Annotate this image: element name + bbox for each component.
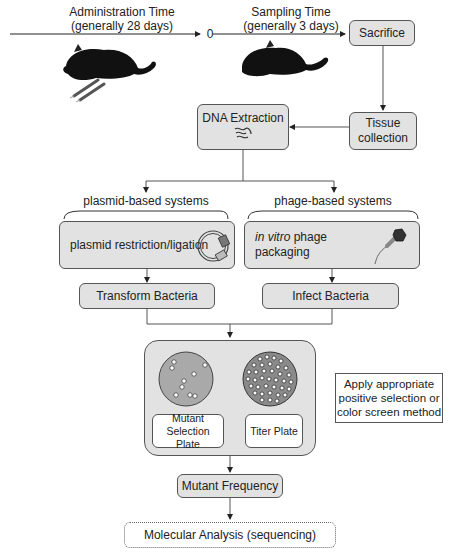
note-line-1: Apply appropriate [344,377,434,391]
phage-step-rest: phage [290,230,327,244]
mutant-plate-label-1: Mutant [172,412,204,425]
titer-plate-icon [243,352,297,406]
molecular-analysis-label: Molecular Analysis (sequencing) [144,528,316,543]
administration-detail: (generally 28 days) [52,19,192,33]
plasmid-step-label: plasmid restriction/ligation [70,238,208,253]
phage-icon [369,226,409,266]
selection-method-note: Apply appropriate positive selection or … [335,373,443,423]
plasmid-icon [194,226,232,266]
petri-dish-icon [159,352,213,406]
infect-bacteria-box: Infect Bacteria [262,283,399,309]
titer-plate-box: Titer Plate [245,414,303,448]
plasmid-branch-label: plasmid-based systems [64,194,228,208]
plasmid-restriction-ligation-box: plasmid restriction/ligation [59,221,235,269]
administration-title: Administration Time [52,5,192,19]
dna-icon [233,126,253,140]
note-line-2: positive selection or [339,391,440,405]
sampling-title: Sampling Time [236,5,346,19]
phage-step-label-2: packaging [255,245,310,260]
transform-bacteria-label: Transform Bacteria [96,289,198,304]
tissue-collection-label-1: Tissue [366,116,401,131]
sampling-time-label: Sampling Time (generally 3 days) [236,5,346,33]
infect-bacteria-label: Infect Bacteria [292,289,369,304]
dna-extraction-label: DNA Extraction [202,111,283,126]
molecular-analysis-box: Molecular Analysis (sequencing) [124,522,336,548]
sacrifice-box: Sacrifice [349,20,415,46]
phage-branch-label: phage-based systems [248,194,418,208]
tissue-collection-label-2: collection [358,131,408,146]
titer-plate-label: Titer Plate [250,425,297,438]
mouse-icon [238,38,330,80]
transform-bacteria-box: Transform Bacteria [79,283,215,309]
mutant-frequency-box: Mutant Frequency [177,474,283,498]
time-zero-marker: 0 [204,27,216,41]
mutant-selection-plate-box: Mutant Selection Plate [152,414,224,448]
mutant-plate-label-2: Selection Plate [153,425,223,451]
tissue-collection-box: Tissue collection [349,112,417,150]
sacrifice-label: Sacrifice [359,26,405,41]
mutant-frequency-label: Mutant Frequency [182,479,279,494]
dna-extraction-box: DNA Extraction [197,104,289,150]
plates-graphic [144,340,316,412]
in-vitro-phage-packaging-box: in vitro phage packaging [244,221,420,269]
phage-step-italic: in vitro [255,230,290,244]
administration-time-label: Administration Time (generally 28 days) [52,5,192,33]
phage-step-label-1: in vitro phage [255,230,327,245]
mouse-with-syringe-icon [60,40,160,102]
note-line-3: color screen method [337,405,441,419]
sampling-detail: (generally 3 days) [236,19,346,33]
